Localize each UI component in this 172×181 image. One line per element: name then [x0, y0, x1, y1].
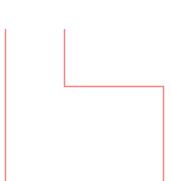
outline-overlay-svg: [0, 0, 172, 181]
screenshot-canvas: [0, 0, 172, 181]
canvas-background: [0, 0, 172, 181]
